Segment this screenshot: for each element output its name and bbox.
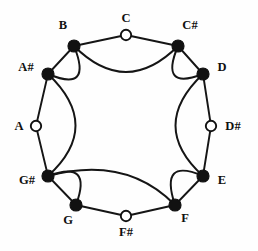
note-node-A-sharp[interactable] (42, 68, 54, 80)
note-node-C[interactable] (121, 30, 131, 40)
note-node-F[interactable] (169, 199, 181, 211)
edge-Ds-E (203, 126, 211, 176)
arc-As-Gs (48, 74, 76, 176)
note-node-D[interactable] (197, 68, 209, 80)
arc-edge-layer (48, 46, 203, 205)
arc-B-Cs (74, 46, 178, 72)
edge-Fs-G (76, 205, 126, 216)
edge-Gs-A (36, 126, 48, 176)
note-label-C-sharp: C# (182, 18, 198, 32)
note-label-F: F (181, 211, 189, 225)
note-node-E[interactable] (197, 170, 209, 182)
edge-A-As (36, 74, 48, 126)
note-label-G: G (63, 213, 73, 227)
note-node-B[interactable] (68, 40, 80, 52)
note-node-G[interactable] (70, 199, 82, 211)
edge-B-C (74, 35, 126, 46)
note-node-G-sharp[interactable] (42, 170, 54, 182)
note-label-F-sharp: F# (119, 225, 134, 239)
note-node-C-sharp[interactable] (172, 40, 184, 52)
edge-C-Cs (126, 35, 178, 46)
note-label-E: E (218, 173, 226, 187)
note-label-D-sharp: D# (225, 119, 241, 133)
arc-Gs-F (48, 170, 175, 205)
note-label-A-sharp: A# (18, 60, 34, 74)
note-label-B: B (59, 18, 67, 32)
edge-D-Ds (203, 74, 211, 126)
note-node-F-sharp[interactable] (121, 211, 131, 221)
note-label-C: C (121, 11, 130, 25)
note-label-D: D (217, 60, 226, 74)
note-circle-diagram: CC#DD#EFF#GG#AA#B (0, 0, 258, 251)
note-label-G-sharp: G# (19, 173, 36, 187)
straight-edge-layer (36, 35, 211, 216)
note-node-A[interactable] (31, 121, 41, 131)
edge-F-Fs (126, 205, 175, 216)
note-circle-svg: CC#DD#EFF#GG#AA#B (0, 0, 258, 251)
note-label-A: A (14, 119, 23, 133)
arc-D-E (176, 74, 204, 176)
note-node-D-sharp[interactable] (206, 121, 216, 131)
